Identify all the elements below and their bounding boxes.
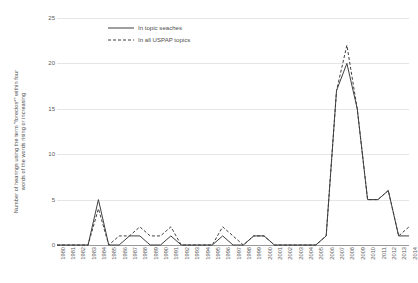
x-tick-label-2009: 2009	[360, 247, 366, 260]
x-tick-label-2008: 2008	[349, 247, 355, 260]
y-axis-title-line-1: Number of hearings using the term "forec…	[13, 70, 19, 213]
y-axis-tick-labels: 0510152025	[40, 18, 55, 245]
x-tick-label-1998: 1998	[246, 247, 252, 260]
x-tick-label-2001: 2001	[277, 247, 283, 260]
x-tick-label-1995: 1995	[215, 247, 221, 260]
x-tick-label-2007: 2007	[339, 247, 345, 260]
x-tick-label-1984: 1984	[101, 247, 107, 260]
y-axis-title: Number of hearings using the term "forec…	[0, 0, 40, 283]
x-tick-label-1992: 1992	[184, 247, 190, 260]
x-tick-label-2011: 2011	[381, 247, 387, 259]
x-tick-label-2010: 2010	[370, 247, 376, 260]
x-tick-label-2014: 2014	[412, 247, 418, 260]
x-tick-label-1990: 1990	[163, 247, 169, 260]
x-tick-label-2013: 2013	[401, 247, 407, 260]
x-tick-label-1997: 1997	[236, 247, 242, 260]
x-tick-label-2012: 2012	[391, 247, 397, 260]
x-tick-label-2000: 2000	[267, 247, 273, 260]
x-tick-label-1981: 1981	[70, 247, 76, 260]
y-tick-label-20: 20	[48, 60, 55, 66]
x-tick-label-2004: 2004	[308, 247, 314, 260]
x-tick-label-1989: 1989	[153, 247, 159, 260]
x-tick-label-1988: 1988	[142, 247, 148, 260]
x-tick-label-1994: 1994	[205, 247, 211, 260]
x-tick-label-1996: 1996	[225, 247, 231, 260]
y-tick-label-15: 15	[48, 106, 55, 112]
x-tick-label-1993: 1993	[194, 247, 200, 260]
legend-label-in-topic-seaches: In topic seaches	[138, 24, 182, 31]
series-line-in-all-uspap-topics	[57, 45, 409, 245]
x-tick-label-1982: 1982	[80, 247, 86, 260]
legend-solid-line-icon	[108, 25, 134, 31]
x-tick-label-1991: 1991	[173, 247, 179, 260]
plot-area	[57, 18, 409, 245]
legend-item-in-topic-seaches: In topic seaches	[108, 22, 238, 33]
y-tick-label-5: 5	[52, 197, 55, 203]
x-tick-label-2002: 2002	[287, 247, 293, 260]
legend-item-in-all-uspap-topics: In all USPAP topics	[108, 34, 238, 45]
y-tick-label-0: 0	[52, 242, 55, 248]
x-tick-label-1986: 1986	[122, 247, 128, 260]
x-tick-label-2003: 2003	[298, 247, 304, 260]
x-axis-tick-labels: 1980198119821983198419851986198719881989…	[57, 247, 409, 281]
x-tick-label-2005: 2005	[318, 247, 324, 260]
legend-dashed-line-icon	[108, 37, 134, 43]
x-tick-label-1987: 1987	[132, 247, 138, 260]
y-axis-title-line-2: words of the words rising or increasing	[20, 93, 26, 190]
y-tick-label-25: 25	[48, 15, 55, 21]
series-layer	[57, 18, 409, 245]
x-tick-label-1985: 1985	[111, 247, 117, 260]
series-line-in-topic-seaches	[57, 63, 409, 245]
x-tick-label-2006: 2006	[329, 247, 335, 260]
x-tick-label-1980: 1980	[60, 247, 66, 260]
legend-label-in-all-uspap-topics: In all USPAP topics	[138, 36, 190, 43]
x-tick-label-1999: 1999	[256, 247, 262, 260]
y-tick-label-10: 10	[48, 151, 55, 157]
x-tick-label-1983: 1983	[91, 247, 97, 260]
chart-legend: In topic seaches In all USPAP topics	[108, 22, 238, 46]
